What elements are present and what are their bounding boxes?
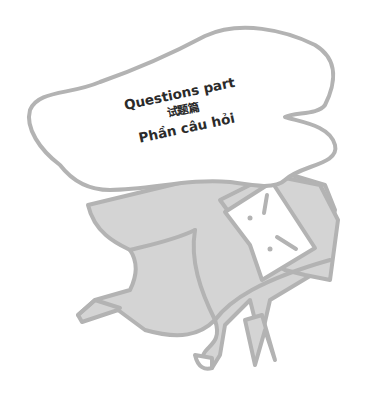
illustration [0,0,371,401]
figure-carrying-bubble-icon [78,170,338,369]
